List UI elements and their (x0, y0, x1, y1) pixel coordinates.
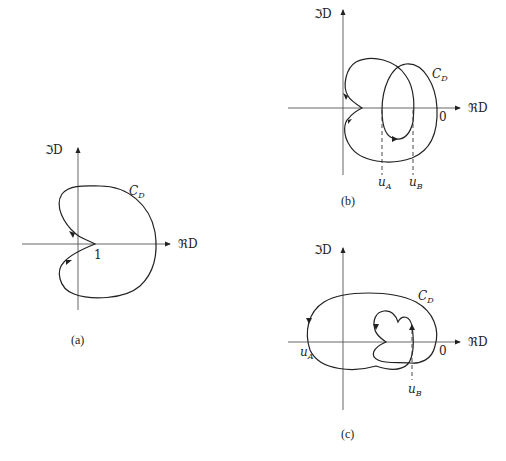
nyquist-figure: ℑD ℜD CD 1 (a) ℑD ℜD CD 0 uA uB (b) ℑD ℜ… (0, 0, 506, 461)
direction-arrow-icon (409, 324, 415, 330)
marker-label-ub: uB (408, 382, 422, 398)
real-axis-label: ℜD (468, 335, 488, 349)
panel-a: ℑD ℜD CD 1 (a) (22, 143, 198, 347)
nyquist-curve (345, 58, 437, 162)
curve-label: CD (129, 184, 145, 200)
panel-caption: (b) (341, 194, 355, 208)
panel-caption: (a) (71, 333, 84, 347)
panel-b: ℑD ℜD CD 0 uA uB (b) (288, 7, 488, 208)
nyquist-curve (307, 293, 436, 370)
imag-axis-label: ℑD (45, 143, 63, 157)
curve-label: CD (432, 67, 448, 83)
real-axis-label: ℜD (178, 237, 198, 251)
marker-label-ua: uA (378, 175, 392, 191)
point-label-0: 0 (439, 344, 447, 358)
imag-axis-label: ℑD (314, 243, 332, 257)
curve-label: CD (418, 289, 434, 305)
real-axis-label: ℜD (468, 101, 488, 115)
panel-c: ℑD ℜD CD 0 uA uB (c) (288, 243, 488, 441)
point-label-1: 1 (94, 248, 102, 262)
marker-label-ua: uA (300, 345, 314, 361)
point-label-0: 0 (439, 110, 447, 124)
imag-axis-label: ℑD (314, 7, 332, 21)
marker-label-ub: uB (409, 175, 423, 191)
direction-arrow-icon (66, 260, 72, 265)
direction-arrow-icon (306, 318, 312, 324)
nyquist-curve (59, 186, 156, 298)
direction-arrow-icon (392, 136, 398, 142)
direction-arrow-icon (348, 119, 352, 124)
panel-caption: (c) (341, 427, 354, 441)
